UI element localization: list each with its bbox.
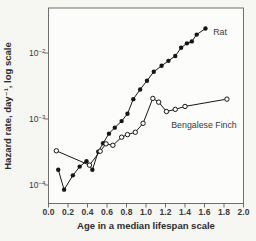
- y-tick-label: 10−4: [29, 180, 46, 191]
- x-tick-label: 1.8: [218, 207, 230, 217]
- rat-point: [138, 87, 142, 91]
- bengalese-finch-point: [111, 143, 115, 147]
- rat-point: [190, 39, 194, 43]
- x-tick-label: 2.0: [238, 207, 250, 217]
- bengalese-finch-point: [125, 132, 129, 136]
- x-tick-label: 0.8: [121, 207, 133, 217]
- rat-point: [62, 187, 66, 191]
- rat-point: [119, 119, 123, 123]
- rat-point: [131, 97, 135, 101]
- bengalese-finch-point: [183, 104, 187, 108]
- rat-point: [90, 168, 94, 172]
- bengalese-finch-point: [119, 135, 123, 139]
- x-tick-label: 0.0: [43, 207, 55, 217]
- x-tick-label: 1.2: [160, 207, 172, 217]
- bengalese-finch-point: [104, 142, 108, 146]
- rat-point: [159, 64, 163, 68]
- rat-point: [113, 125, 117, 129]
- series-label-bengalese-finch: Bengalese Finch: [171, 120, 237, 130]
- rat-point: [185, 41, 189, 45]
- bengalese-finch-point: [141, 121, 145, 125]
- rat-point: [173, 54, 177, 58]
- x-tick-label: 1.0: [140, 207, 152, 217]
- y-axis-title: Hazard rate, day⁻¹, log scale: [2, 42, 13, 170]
- bengalese-finch-point: [98, 149, 102, 153]
- rat-point: [125, 112, 129, 116]
- bengalese-finch-point: [156, 100, 160, 104]
- bengalese-finch-point: [133, 130, 137, 134]
- bengalese-finch-point: [151, 96, 155, 100]
- chart-generated-layer: 0.00.20.40.60.81.01.21.41.61.82.010−210−…: [29, 8, 250, 217]
- rat-point: [56, 168, 60, 172]
- series-label-rat: Rat: [213, 27, 227, 37]
- rat-point: [71, 173, 75, 177]
- hazard-chart-svg: 0.00.20.40.60.81.01.21.41.61.82.010−210−…: [0, 0, 256, 241]
- rat-point: [107, 131, 111, 135]
- x-axis-title: Age in a median lifespan scale: [77, 220, 215, 231]
- y-tick-label: 10−3: [29, 114, 46, 125]
- x-tick-label: 1.6: [199, 207, 211, 217]
- x-tick-label: 0.2: [62, 207, 74, 217]
- bengalese-finch-point: [164, 109, 168, 113]
- bengalese-finch-point: [225, 97, 229, 101]
- x-tick-label: 1.4: [179, 207, 191, 217]
- rat-point: [166, 59, 170, 63]
- y-tick-label: 10−2: [29, 48, 46, 59]
- rat-point: [203, 26, 207, 30]
- hazard-rate-figure: 0.00.20.40.60.81.01.21.41.61.82.010−210−…: [0, 0, 256, 241]
- bengalese-finch-point: [54, 149, 58, 153]
- bengalese-finch-point: [173, 107, 177, 111]
- rat-point: [195, 32, 199, 36]
- x-tick-label: 0.4: [82, 207, 94, 217]
- bengalese-finch-point: [87, 163, 91, 167]
- x-tick-label: 0.6: [101, 207, 113, 217]
- rat-point: [152, 70, 156, 74]
- rat-point: [78, 164, 82, 168]
- rat-point: [145, 79, 149, 83]
- rat-point: [179, 46, 183, 50]
- plot-frame: [49, 8, 244, 204]
